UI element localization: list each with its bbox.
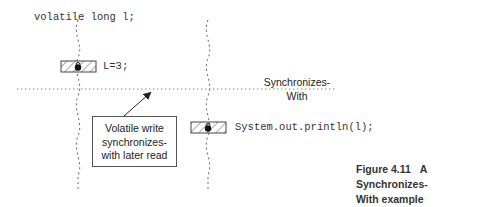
thread-1-line: [76, 20, 79, 190]
callout-line1: Volatile write: [93, 122, 176, 136]
callout-box: Volatile write synchronizes- with later …: [92, 116, 177, 167]
figure-caption: Figure 4.11 A Synchronizes- With example: [356, 162, 492, 207]
sync-label-line1: Synchronizes-: [257, 75, 337, 89]
write-statement: L=3;: [103, 60, 128, 72]
synchronizes-with-label: Synchronizes- With: [257, 75, 337, 103]
read-lock-box: [191, 122, 226, 133]
volatile-declaration: volatile long l;: [34, 11, 135, 23]
arrow-up-right-icon: [124, 93, 150, 116]
figure-number: Figure 4.11: [356, 163, 411, 175]
write-lock-box: [61, 61, 96, 72]
sync-label-line2: With: [257, 89, 337, 103]
read-statement: System.out.println(l);: [235, 121, 374, 133]
callout-line2: synchronizes-: [93, 136, 176, 150]
figure-title-line2: With example: [356, 193, 424, 205]
thread-2-line: [206, 20, 209, 190]
callout-line3: with later read: [93, 149, 176, 163]
